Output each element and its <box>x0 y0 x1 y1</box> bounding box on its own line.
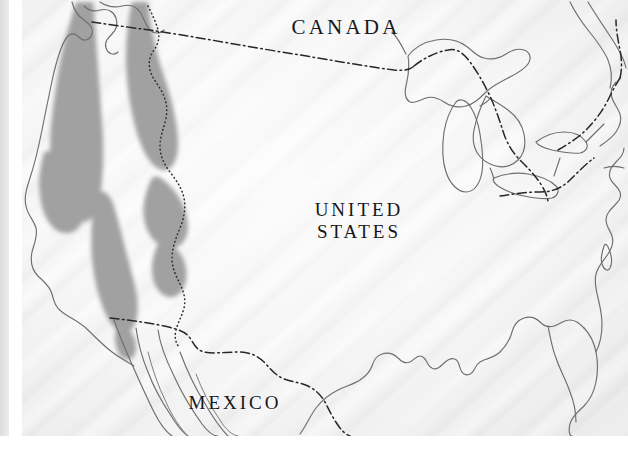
coastline-florida-west <box>548 326 576 422</box>
coastline-long-island <box>604 167 624 169</box>
lake-connector-detroit <box>490 168 494 179</box>
coastline-baja-inner <box>136 328 188 436</box>
lake-superior <box>405 39 530 107</box>
lake-connector-niagara <box>554 158 560 176</box>
map-label-united-states: UNITED STATES <box>284 199 434 244</box>
border-usa-canada-lakes <box>414 50 548 203</box>
coastline-new-england <box>600 82 621 146</box>
range-sierra-nevada <box>91 191 137 332</box>
range-southern-rockies <box>152 241 187 298</box>
map-label-mexico: MEXICO <box>160 392 310 414</box>
species-range-shading <box>39 2 188 359</box>
border-usa-mexico <box>110 318 350 436</box>
coastline-mexico-west <box>158 330 218 436</box>
lake-michigan <box>443 100 483 192</box>
range-central-rockies <box>143 177 188 249</box>
range-map-page: CANADA UNITED STATES MEXICO <box>0 0 628 460</box>
map-label-canada: CANADA <box>276 15 416 40</box>
coastline-st-lawrence <box>570 2 611 88</box>
coastline-gulf <box>300 317 584 434</box>
border-usa-canada-east <box>616 20 622 78</box>
coastline-florida <box>569 328 597 436</box>
